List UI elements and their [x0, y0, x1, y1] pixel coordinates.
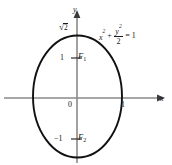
- equation-plus-operator: +: [107, 31, 112, 40]
- focus-f1-subscript: 1: [83, 56, 86, 62]
- equation-fraction-denominator: 2: [115, 38, 121, 46]
- y-axis-label: y: [73, 6, 77, 14]
- equation-x-exponent: 2: [103, 28, 106, 34]
- ellipse-figure: y x √2 1 −1 0 1 F1 F2 x2 + y2 2 = 1: [0, 0, 172, 165]
- origin-label: 0: [68, 101, 72, 109]
- tick-label-x-one: 1: [121, 101, 125, 109]
- tick-label-y-negative-one: −1: [54, 135, 63, 143]
- equation-equals-sign: =: [125, 31, 130, 40]
- tick-label-y-one: 1: [60, 54, 64, 62]
- focus-label-f1: F1: [78, 52, 86, 61]
- focus-f2-subscript: 2: [83, 137, 86, 143]
- equation-term-x: x2: [99, 31, 105, 42]
- y-vertex-sqrt2-label: √2: [59, 23, 68, 32]
- ellipse-equation: x2 + y2 2 = 1: [99, 26, 136, 46]
- equation-y-exponent: 2: [119, 23, 122, 29]
- equation-fraction-numerator: y2: [114, 26, 122, 36]
- equation-fraction: y2 2: [114, 26, 122, 46]
- radical-radicand: 2: [63, 23, 68, 32]
- focus-label-f2: F2: [78, 133, 86, 142]
- x-axis-label: x: [160, 95, 164, 103]
- equation-right-hand-side: 1: [132, 31, 136, 40]
